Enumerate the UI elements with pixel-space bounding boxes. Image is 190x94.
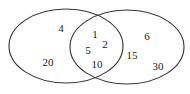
label-right-only: 6 — [144, 30, 150, 42]
label-left-only: 4 — [58, 22, 64, 34]
venn-diagram: 4201521061530 — [0, 0, 190, 94]
label-intersection: 5 — [85, 44, 91, 56]
label-right-only: 15 — [127, 49, 139, 61]
label-intersection: 10 — [92, 58, 104, 70]
label-intersection: 2 — [102, 38, 108, 50]
label-intersection: 1 — [92, 28, 98, 40]
region-labels: 4201521061530 — [43, 22, 165, 72]
label-left-only: 20 — [43, 56, 55, 68]
label-right-only: 30 — [153, 60, 165, 72]
